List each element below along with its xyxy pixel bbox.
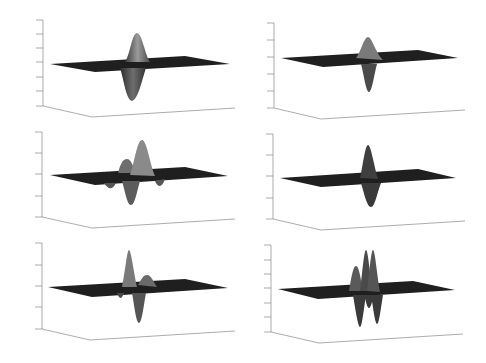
base-axes	[42, 217, 235, 228]
base-axes	[271, 332, 463, 343]
base-axes	[273, 219, 465, 230]
surface-plot-5-svg	[0, 235, 243, 363]
surface-trough	[361, 183, 381, 207]
surface-plot-1	[0, 0, 243, 121]
surface-plot-4-svg	[243, 121, 486, 242]
base-axes	[43, 106, 235, 117]
z-axis	[36, 20, 43, 106]
surface-trough	[120, 68, 146, 101]
surface-plot-4	[243, 121, 486, 242]
surface-trough-right	[371, 295, 383, 324]
surface-trough	[361, 64, 377, 92]
surface-plot-1-svg	[0, 0, 243, 121]
surface-peak	[356, 37, 383, 60]
z-axis	[35, 132, 42, 217]
surface-trough-left	[353, 295, 366, 327]
z-axis	[266, 134, 273, 219]
z-axis	[267, 23, 274, 108]
surface-trough	[132, 293, 146, 323]
surface-plot-3-svg	[0, 121, 243, 242]
surface-trough	[122, 181, 140, 205]
surface-peak	[130, 140, 155, 176]
base-axes	[274, 108, 465, 119]
figure-grid	[0, 0, 486, 363]
base-axes	[42, 329, 235, 340]
surface-plot-5	[0, 235, 243, 363]
surface-peak	[125, 33, 150, 62]
surface-plot-3	[0, 121, 243, 242]
surface-plot-6	[243, 235, 486, 363]
surface-side-lobe-left	[104, 183, 116, 188]
surface-trough-small	[117, 293, 124, 298]
z-axis	[35, 243, 42, 329]
surface-plot-2	[243, 0, 486, 121]
surface-plot-2-svg	[243, 0, 486, 121]
surface-peak	[360, 145, 378, 179]
z-axis	[264, 245, 271, 332]
surface-peak	[122, 250, 137, 287]
surface-plot-6-svg	[243, 235, 486, 363]
